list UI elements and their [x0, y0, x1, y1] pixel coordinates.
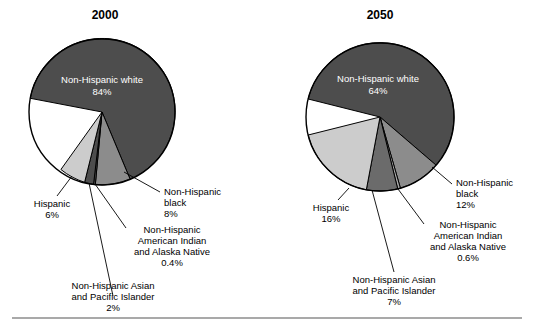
callout-2050-asian-line1: Non-Hispanic Asian — [353, 274, 436, 285]
leader-2050-black — [432, 167, 452, 184]
callout-2000-hispanic-line1: Hispanic — [34, 198, 71, 209]
two-pie-chart-figure: 2000 Non-Hispanic white 84% Non-Hispanic… — [0, 0, 534, 329]
leader-2000-hispanic — [57, 176, 72, 196]
callout-2000-asian-value: 2% — [106, 302, 120, 313]
label-2000-white-name: Non-Hispanic white — [61, 74, 143, 85]
leader-2050-asian — [372, 190, 394, 272]
callout-2050-asian-value: 7% — [387, 296, 401, 307]
callout-2000-black-line1: Non-Hispanic — [164, 186, 221, 197]
callout-2050-hispanic-value: 16% — [321, 213, 341, 224]
callout-2050-asian-line2: and Pacific Islander — [353, 285, 436, 296]
leader-2000-black — [124, 172, 160, 192]
callout-2050-hispanic-line1: Hispanic — [313, 202, 350, 213]
callout-2050-aian-line2: American Indian — [434, 230, 503, 241]
callout-2000-black-line2: black — [164, 197, 186, 208]
callout-2000-aian-value: 0.4% — [161, 257, 183, 268]
callout-2050-black-line1: Non-Hispanic — [456, 177, 513, 188]
pie-chart-2000: 2000 Non-Hispanic white 84% Non-Hispanic… — [29, 8, 221, 313]
label-2000-white-value: 84% — [92, 86, 112, 97]
leader-2000-aian — [95, 184, 126, 228]
callout-2000-black-value: 8% — [164, 208, 178, 219]
callout-2050-aian-line1: Non-Hispanic — [439, 219, 496, 230]
callout-2050-aian-line3: and Alaska Native — [430, 241, 506, 252]
callout-2000-asian-line2: and Pacific Islander — [72, 291, 155, 302]
leader-2050-aian — [398, 189, 424, 224]
callout-2000-aian-line2: American Indian — [138, 235, 207, 246]
callout-2000-hispanic-value: 6% — [45, 209, 59, 220]
pie-chart-2050: 2050 Non-Hispanic white 64% Non-Hispanic… — [306, 8, 513, 307]
callout-2000-aian-line3: and Alaska Native — [134, 246, 210, 257]
label-2050-white-value: 64% — [368, 85, 388, 96]
callout-2050-black-line2: black — [456, 188, 478, 199]
chart-title-2050: 2050 — [367, 8, 394, 22]
callout-2000-asian-line1: Non-Hispanic Asian — [72, 280, 155, 291]
figure-container: 2000 Non-Hispanic white 84% Non-Hispanic… — [0, 0, 534, 329]
leader-2050-hispanic — [338, 188, 349, 200]
label-2050-white-name: Non-Hispanic white — [337, 73, 419, 84]
callout-2050-aian-value: 0.6% — [457, 252, 479, 263]
chart-title-2000: 2000 — [92, 8, 119, 22]
callout-2000-aian-line1: Non-Hispanic — [143, 224, 200, 235]
callout-2050-black-value: 12% — [456, 199, 476, 210]
